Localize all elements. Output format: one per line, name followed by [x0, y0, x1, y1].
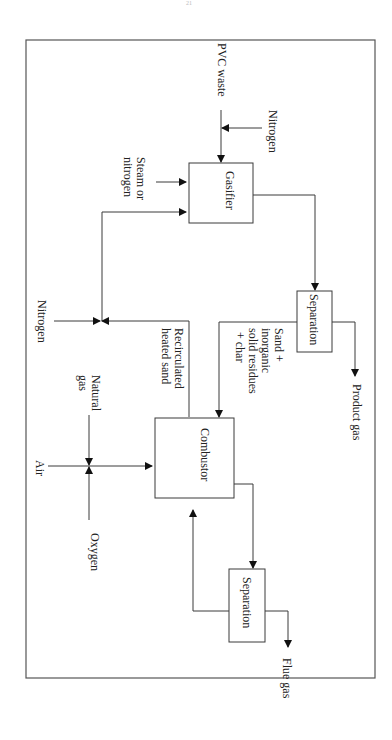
- air-label: Air: [33, 460, 47, 476]
- combustor-node: Combustor: [155, 418, 234, 498]
- sand-label-3: solid residues: [246, 328, 260, 394]
- product-gas-label: Product gas: [350, 384, 364, 441]
- sand-label-1: Sand +: [272, 328, 286, 362]
- air-stream: Air: [33, 460, 152, 476]
- pvc-waste-stream: PVC waste: [215, 43, 229, 162]
- sand-label-4: + char: [233, 332, 247, 362]
- flue-gas-label: Flue gas: [280, 658, 294, 699]
- sand-residues-stream: Sand + inorganic solid residues + char: [219, 322, 297, 417]
- pvc-waste-label: PVC waste: [215, 43, 229, 97]
- steam-stream: Steam or nitrogen: [121, 157, 186, 200]
- diagram-frame: [26, 40, 375, 678]
- natural-gas-label-1: Natural: [89, 375, 103, 412]
- gasifier-to-separation-line: [253, 195, 315, 290]
- recirculated-label-1: Recirculated: [172, 328, 186, 389]
- separation-return-line: [193, 510, 229, 611]
- recirculated-label-2: heated sand: [159, 328, 173, 384]
- flue-gas-stream: Flue gas: [265, 611, 294, 699]
- product-gas-stream: Product gas: [332, 322, 364, 441]
- separation-2-node: Separation: [229, 569, 265, 642]
- nitrogen-top-stream: Nitrogen: [222, 110, 280, 153]
- combustor-label: Combustor: [198, 428, 212, 481]
- separation-2-label: Separation: [240, 577, 254, 628]
- oxygen-stream: Oxygen: [88, 467, 102, 571]
- separation-1-node: Separation: [297, 291, 332, 352]
- oxygen-label: Oxygen: [88, 533, 102, 571]
- natural-gas-stream: Natural gas: [76, 375, 103, 465]
- nitrogen-top-label: Nitrogen: [266, 110, 280, 153]
- gasifier-node: Gasifier: [189, 163, 253, 223]
- natural-gas-label-2: gas: [76, 375, 90, 391]
- process-flow-diagram: PVC waste Nitrogen Steam or nitrogen Gas…: [0, 0, 392, 740]
- separation-1-label: Separation: [307, 294, 321, 345]
- sand-label-2: inorganic: [259, 328, 273, 373]
- steam-label-2: nitrogen: [121, 157, 135, 197]
- steam-label-1: Steam or: [134, 157, 148, 200]
- gasifier-label: Gasifier: [223, 171, 237, 210]
- nitrogen-left-stream: Nitrogen: [35, 300, 100, 343]
- combustor-to-separation-line: [234, 484, 253, 568]
- nitrogen-left-label: Nitrogen: [35, 300, 49, 343]
- recirculated-sand-stream: Recirculated heated sand: [101, 212, 189, 417]
